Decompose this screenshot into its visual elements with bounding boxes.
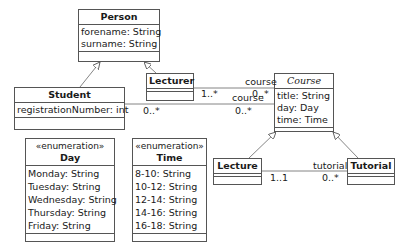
generalization-tutorial-course xyxy=(333,132,358,158)
role-label-lecturer-course: course xyxy=(245,77,277,87)
attribute: day: Day xyxy=(277,102,331,114)
class-name: Lecture xyxy=(216,160,259,172)
attribute: title: String xyxy=(277,90,331,102)
role-label-lecture-tutorial: tutorial xyxy=(313,161,347,171)
operations-compartment xyxy=(133,234,206,238)
enum-literal: 12-14: String xyxy=(135,193,204,206)
enum-literal: 8-10: String xyxy=(135,167,204,180)
stereotype: «enumeration» xyxy=(28,140,112,152)
operations-compartment xyxy=(214,177,261,181)
class-name: Time xyxy=(135,152,204,164)
enum-literal: 14-16: String xyxy=(135,206,204,219)
enum-literal: Thursday: String xyxy=(28,206,112,219)
enum-literal: Tuesday: String xyxy=(28,180,112,193)
operations-compartment xyxy=(147,92,193,96)
enum-day[interactable]: «enumeration» Day Monday: String Tuesday… xyxy=(25,138,115,242)
operations-compartment xyxy=(79,52,159,56)
attribute: time: Time xyxy=(277,114,331,126)
class-student[interactable]: Student registrationNumber: int xyxy=(14,87,125,130)
enum-time[interactable]: «enumeration» Time 8-10: String 10-12: S… xyxy=(132,138,207,242)
enum-literal: Monday: String xyxy=(28,167,112,180)
generalization-lecture-course xyxy=(249,132,276,158)
class-name: Tutorial xyxy=(350,160,392,172)
generalization-lecturer-person xyxy=(144,62,156,73)
multiplicity-student: 0..* xyxy=(143,106,160,116)
operations-compartment xyxy=(15,118,124,122)
stereotype: «enumeration» xyxy=(135,140,204,152)
multiplicity-course-from-student: 0..* xyxy=(235,106,252,116)
operations-compartment xyxy=(275,128,333,132)
attribute: forename: String xyxy=(81,26,157,38)
operations-compartment xyxy=(26,234,114,238)
class-person[interactable]: Person forename: String surname: String xyxy=(78,9,160,62)
attribute: surname: String xyxy=(81,38,157,50)
multiplicity-tutorial: 0..* xyxy=(322,173,339,183)
class-name: Lecturer xyxy=(149,75,191,87)
generalization-student-person xyxy=(80,62,100,87)
enum-literal: 16-18: String xyxy=(135,219,204,232)
enum-literal: 10-12: String xyxy=(135,180,204,193)
class-lecturer[interactable]: Lecturer xyxy=(146,73,194,101)
role-label-student-course: course xyxy=(232,93,264,103)
enum-literal: Wednesday: String xyxy=(28,193,112,206)
enum-literal: Friday: String xyxy=(28,219,112,232)
class-tutorial[interactable]: Tutorial xyxy=(347,158,395,185)
class-name: Course xyxy=(277,75,331,87)
class-course[interactable]: Course title: String day: Day time: Time xyxy=(274,73,334,132)
multiplicity-lecturer: 1..* xyxy=(201,89,218,99)
operations-compartment xyxy=(348,177,394,181)
class-name: Student xyxy=(17,89,122,101)
attribute: registrationNumber: int xyxy=(17,104,122,116)
multiplicity-lecture: 1..1 xyxy=(270,173,288,183)
class-name: Person xyxy=(81,11,157,23)
class-lecture[interactable]: Lecture xyxy=(213,158,262,185)
class-name: Day xyxy=(28,152,112,164)
